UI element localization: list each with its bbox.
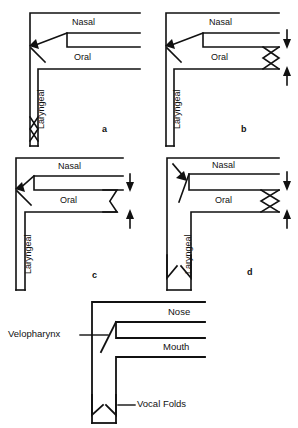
velum-arrow-shaft-a bbox=[31, 48, 45, 62]
lips-upper-fold-b bbox=[263, 47, 279, 69]
figure-canvas: Nasal Oral Laryngeal a bbox=[0, 0, 298, 428]
velum-a bbox=[33, 33, 67, 46]
panel-d-drawing bbox=[149, 150, 298, 295]
lips-arrow-down-head-b bbox=[283, 39, 291, 49]
nose-label: Nose bbox=[168, 306, 190, 317]
nasal-floor-legend bbox=[116, 322, 205, 338]
oral-floor-legend bbox=[116, 357, 205, 423]
panel-c-oral-label: Oral bbox=[60, 195, 77, 205]
panel-c: Nasal Oral Laryngeal c bbox=[0, 150, 149, 295]
velum-legend bbox=[101, 322, 116, 352]
nasal-floor-d bbox=[189, 174, 279, 190]
glottis-right-triangle-legend bbox=[106, 395, 116, 415]
velum-arrow-shaft-c bbox=[17, 191, 31, 205]
velum-arrow-shaft-b bbox=[167, 48, 181, 62]
lips-arrow-up-head-d bbox=[283, 209, 291, 219]
oral-floor-b bbox=[174, 69, 279, 146]
panel-b-oral-label: Oral bbox=[211, 52, 228, 62]
panel-b-nasal-label: Nasal bbox=[209, 17, 232, 27]
vocal-folds-label: Vocal Folds bbox=[137, 398, 186, 409]
panel-a-caption: a bbox=[102, 124, 107, 134]
panel-c-laryngeal-label: Laryngeal bbox=[23, 234, 33, 274]
velum-b bbox=[169, 33, 203, 46]
panel-d: Nasal Oral Laryngeal d bbox=[149, 150, 298, 295]
panel-d-laryngeal-label: Laryngeal bbox=[183, 234, 193, 274]
velopharynx-label: Velopharynx bbox=[8, 328, 60, 339]
glottis-left-triangle-legend bbox=[92, 395, 103, 415]
panel-a-nasal-label: Nasal bbox=[72, 17, 95, 27]
panel-b: Nasal Oral Laryngeal b bbox=[149, 0, 298, 150]
lips-arrow-up-head-b bbox=[283, 66, 291, 76]
nasal-floor-b bbox=[203, 33, 279, 47]
panel-c-nasal-label: Nasal bbox=[58, 161, 81, 171]
lips-lower-triangle-c bbox=[103, 202, 117, 213]
mouth-label: Mouth bbox=[163, 341, 189, 352]
legend-panel: Velopharynx Nose Mouth Vocal Folds bbox=[0, 295, 298, 428]
lips-arrow-up-head-c bbox=[126, 209, 134, 219]
lips-upper-triangle-c bbox=[103, 190, 117, 201]
panel-d-oral-label: Oral bbox=[215, 195, 232, 205]
panel-a-laryngeal-label: Laryngeal bbox=[36, 89, 46, 129]
lips-arrow-down-head-d bbox=[283, 181, 291, 191]
nasal-floor-a bbox=[67, 33, 140, 47]
nasal-floor-c bbox=[34, 176, 123, 190]
panel-b-laryngeal-label: Laryngeal bbox=[172, 89, 182, 129]
panel-d-nasal-label: Nasal bbox=[212, 160, 235, 170]
oral-floor-c bbox=[25, 212, 117, 290]
panel-b-caption: b bbox=[241, 124, 247, 134]
panel-a: Nasal Oral Laryngeal a bbox=[0, 0, 149, 150]
lips-lower-fold-b bbox=[263, 47, 279, 69]
panel-a-oral-label: Oral bbox=[74, 52, 91, 62]
oral-floor-a bbox=[38, 69, 140, 146]
lips-upper-fold-d bbox=[261, 190, 279, 212]
oral-floor-d bbox=[191, 212, 279, 290]
lips-lower-fold-d bbox=[261, 190, 279, 212]
lips-arrow-down-head-c bbox=[126, 182, 134, 192]
glottis-left-triangle-d bbox=[167, 255, 177, 278]
panel-c-caption: c bbox=[92, 270, 97, 280]
panel-d-caption: d bbox=[247, 267, 253, 277]
velum-arrow-head-d bbox=[176, 171, 187, 181]
